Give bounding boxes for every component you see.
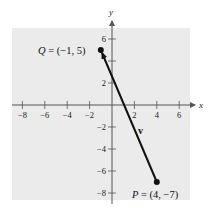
point-p-coords: (4, −7)	[150, 189, 179, 201]
y-tick-label: −8	[97, 188, 106, 198]
coordinate-plane: −8−6−4−224662−2−4−6−8 x y Q = (−1, 5) P …	[0, 0, 215, 211]
y-tick-label: −4	[97, 144, 107, 154]
x-axis-label: x	[198, 100, 203, 110]
point-q-label: Q = (−1, 5)	[38, 45, 86, 57]
y-tick-label: −6	[97, 166, 106, 176]
x-tick-label: −6	[40, 110, 49, 120]
vector-v-label: v	[138, 125, 143, 136]
y-tick-label: 6	[102, 34, 106, 44]
x-tick-label: 6	[177, 110, 181, 120]
x-tick-label: −8	[18, 110, 27, 120]
x-tick-label: 2	[132, 110, 136, 120]
point-q-coords: (−1, 5)	[57, 45, 86, 57]
x-tick-label: 4	[155, 110, 160, 120]
x-tick-label: −2	[85, 110, 94, 120]
y-tick-label: 2	[102, 78, 106, 88]
point-p-label: P = (4, −7)	[131, 189, 179, 201]
y-axis-label: y	[108, 7, 113, 17]
point-p-name: P	[131, 189, 139, 200]
point-p-marker	[154, 179, 160, 185]
y-tick-label: −2	[97, 122, 106, 132]
x-tick-label: −4	[63, 110, 73, 120]
equals-sign: =	[141, 189, 150, 200]
point-q-marker	[98, 47, 104, 53]
point-q-name: Q	[38, 45, 46, 56]
equals-sign: =	[48, 45, 57, 56]
